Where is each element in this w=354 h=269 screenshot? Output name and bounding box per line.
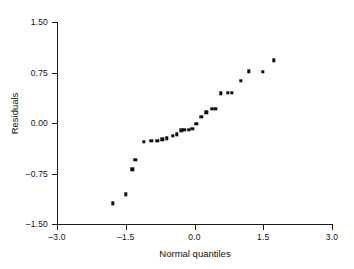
data-point bbox=[205, 111, 208, 114]
x-tick-mark bbox=[195, 225, 196, 230]
data-point bbox=[230, 91, 233, 94]
y-tick-label: –0.75 bbox=[16, 169, 48, 179]
data-point bbox=[171, 134, 174, 137]
data-point bbox=[124, 193, 127, 196]
qq-plot-figure: 1.500.750.00–0.75–1.50 –3.0–1.50.01.53.0… bbox=[0, 0, 354, 269]
x-axis-title: Normal quantiles bbox=[57, 248, 333, 259]
data-point bbox=[200, 115, 203, 118]
y-tick-label: –1.50 bbox=[16, 219, 48, 229]
y-tick-label: 1.50 bbox=[16, 17, 48, 27]
y-tick-label: 0.00 bbox=[16, 118, 48, 128]
data-point bbox=[165, 137, 168, 140]
data-point bbox=[226, 91, 229, 94]
data-point bbox=[272, 59, 275, 62]
data-point bbox=[219, 92, 222, 95]
data-point bbox=[183, 128, 186, 131]
x-tick-mark bbox=[263, 225, 264, 230]
data-point bbox=[134, 158, 137, 161]
x-tick-label: –1.5 bbox=[106, 232, 146, 242]
x-tick-label: 3.0 bbox=[312, 232, 352, 242]
y-tick-label: 0.75 bbox=[16, 68, 48, 78]
data-point bbox=[191, 127, 194, 130]
data-point bbox=[261, 70, 264, 73]
data-point bbox=[175, 133, 178, 136]
y-axis-title: Residuals bbox=[9, 74, 20, 154]
x-tick-label: 1.5 bbox=[243, 232, 283, 242]
data-point bbox=[161, 137, 164, 140]
scatter-plot-area bbox=[57, 22, 332, 224]
data-point bbox=[142, 140, 145, 143]
data-point bbox=[195, 122, 198, 125]
data-point bbox=[150, 139, 153, 142]
data-point bbox=[213, 107, 216, 110]
x-tick-label: –3.0 bbox=[37, 232, 77, 242]
x-tick-mark bbox=[126, 225, 127, 230]
x-tick-label: 0.0 bbox=[175, 232, 215, 242]
x-tick-mark bbox=[57, 225, 58, 230]
data-point bbox=[156, 139, 159, 142]
data-point bbox=[247, 69, 250, 72]
data-point bbox=[239, 79, 242, 82]
data-point bbox=[111, 201, 114, 204]
x-tick-mark bbox=[332, 225, 333, 230]
data-point bbox=[130, 168, 133, 171]
